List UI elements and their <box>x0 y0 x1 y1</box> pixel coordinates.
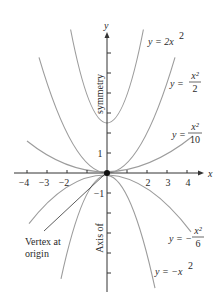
equation-numerator: x² <box>190 121 199 132</box>
x-axis-label: x <box>207 168 213 179</box>
y-tick-label: 1 <box>98 148 103 159</box>
x-tick-label: −2 <box>59 177 70 188</box>
equation-prefix: y = − <box>168 233 192 244</box>
y-ticks <box>107 53 111 273</box>
x-axis-arrow-icon <box>198 171 204 176</box>
curve-y-x2-over-10 <box>27 136 193 172</box>
equation-prefix: y = <box>169 78 184 89</box>
y-tick-label: −1 <box>94 188 105 199</box>
equation-denominator: 2 <box>193 83 198 94</box>
label-y-2x2: y = 2x 2 <box>147 30 184 47</box>
axis-of-symmetry-label-top: symmetry <box>94 74 105 114</box>
y-axis-arrow-icon <box>105 32 110 38</box>
x-tick-label: 4 <box>186 177 191 188</box>
equation-numerator: x² <box>190 70 199 81</box>
vertex-annotation-line2: origin <box>25 248 49 259</box>
x-tick-label: −4 <box>19 177 30 188</box>
label-y-x2-over-2: y = x² 2 <box>169 70 201 94</box>
equation-numerator: x² <box>193 225 202 236</box>
equation-denominator: 10 <box>190 134 200 145</box>
x-tick-label: 2 <box>146 177 151 188</box>
x-tick-labels: −4 −3 −2 2 3 4 <box>19 177 191 188</box>
curves <box>27 30 193 289</box>
axis-of-symmetry-label-bottom: Axis of <box>94 222 105 252</box>
equation-denominator: 6 <box>196 238 201 249</box>
x-tick-label: 3 <box>166 177 171 188</box>
label-y-neg-x2-over-6: y = − x² 6 <box>168 225 204 249</box>
equation-exponent: 2 <box>188 260 193 271</box>
equation-exponent: 2 <box>179 30 184 41</box>
label-y-neg-x2: y = −x 2 <box>154 260 193 277</box>
vertex-dot <box>104 170 110 176</box>
parabola-diagram: −4 −3 −2 2 3 4 1 −1 x y symmetry Axis of… <box>0 0 220 308</box>
curve-y-neg-x2 <box>61 175 155 288</box>
equation-prefix: y = 2x <box>147 36 174 47</box>
vertex-annotation-line1: Vertex at <box>25 236 61 247</box>
equation-prefix: y = <box>171 129 186 140</box>
x-tick-label: −3 <box>39 177 50 188</box>
equation-prefix: y = −x <box>154 266 183 277</box>
y-axis-label: y <box>103 20 109 31</box>
